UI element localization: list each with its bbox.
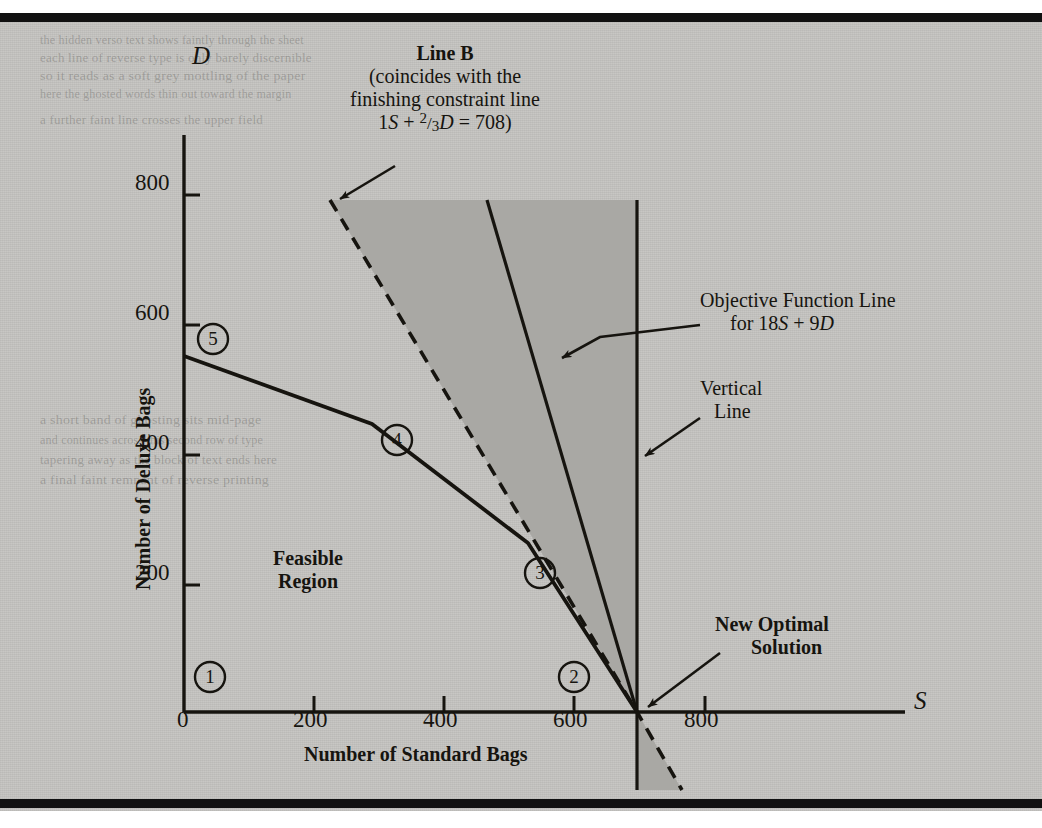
vertex-label-3: 3	[535, 562, 545, 584]
objective-var-d: D	[820, 312, 834, 334]
objective-function-annotation: Objective Function Line for 18S + 9D	[700, 289, 960, 335]
x-tick-label-0: 0	[177, 707, 189, 733]
eq-coefficient-s: 1	[378, 112, 388, 134]
eq-frac-numerator: 2	[420, 110, 428, 126]
feasible-region-label: Feasible Region	[243, 547, 373, 593]
line-b-annotation: Line B (coincides with the finishing con…	[295, 42, 595, 136]
eq-frac-denominator: 3	[432, 118, 440, 134]
optimal-solution-leader	[648, 653, 720, 707]
eq-plus: +	[403, 112, 414, 134]
objective-text-2: for 18S + 9D	[700, 312, 960, 335]
vertical-line-annotation: Vertical Line	[700, 377, 870, 423]
objective-mid: + 9	[788, 312, 819, 334]
x-tick-label-800: 800	[684, 707, 719, 733]
eq-fraction: 2/3	[420, 110, 440, 135]
vertex-label-4: 4	[392, 429, 402, 451]
vertical-line-leader	[645, 418, 700, 456]
eq-tail: = 708)	[459, 112, 512, 134]
eq-var-d: D	[439, 112, 453, 134]
new-optimal-solution-annotation: New Optimal Solution	[715, 613, 915, 659]
x-axis-variable: S	[914, 687, 927, 716]
x-tick-label-400: 400	[423, 707, 458, 733]
x-tick-label-600: 600	[553, 707, 588, 733]
objective-prefix: for 18	[730, 312, 778, 334]
optimal-text-2: Solution	[715, 636, 915, 659]
vertical-line-text-2: Line	[700, 400, 870, 423]
vertex-label-2: 2	[569, 666, 579, 688]
line-b-leader	[340, 166, 395, 199]
y-axis-variable: D	[192, 42, 210, 71]
figure-plate: the hidden verso text shows faintly thro…	[0, 0, 1042, 828]
objective-var-s: S	[778, 312, 788, 334]
y-tick-label-800: 800	[135, 170, 170, 196]
line-b-text-2: finishing constraint line	[295, 88, 595, 111]
optimal-text-1: New Optimal	[715, 613, 915, 636]
vertical-line-text-1: Vertical	[700, 377, 870, 400]
y-tick-label-600: 600	[135, 300, 170, 326]
vertex-label-1: 1	[205, 666, 215, 688]
line-b-title: Line B	[295, 42, 595, 65]
x-tick-label-200: 200	[293, 707, 328, 733]
x-axis-title: Number of Standard Bags	[304, 743, 528, 766]
feasible-text-2: Region	[243, 570, 373, 593]
line-b-text-1: (coincides with the	[295, 65, 595, 88]
objective-text-1: Objective Function Line	[700, 289, 960, 312]
eq-var-s: S	[388, 112, 398, 134]
line-b-equation: 1S + 2/3D = 708)	[295, 110, 595, 135]
feasible-text-1: Feasible	[243, 547, 373, 570]
y-axis-title: Number of Deluxe Bags	[132, 388, 155, 590]
vertex-label-5: 5	[208, 328, 218, 350]
